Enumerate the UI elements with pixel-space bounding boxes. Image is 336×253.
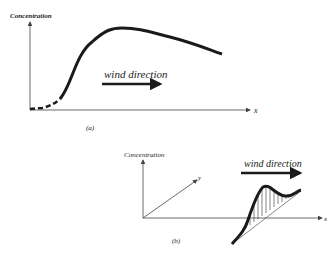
- b-y-axis: [143, 180, 197, 218]
- b-hatch: [250, 187, 286, 225]
- b-xlabel: x: [323, 215, 328, 223]
- b-baseline-diag: [232, 191, 301, 244]
- b-wind-label: wind direction: [244, 158, 302, 169]
- figure-b: Concentration y x wind direction (b): [124, 151, 328, 245]
- b-zlabel: Concentration: [124, 151, 165, 159]
- diagram-canvas: Concentration x wind direction (a) Conce…: [0, 0, 336, 253]
- figure-a: Concentration x wind direction (a): [10, 12, 258, 132]
- a-ylabel: Concentration: [10, 12, 52, 20]
- a-xlabel: x: [253, 106, 258, 115]
- b-ylabel: y: [197, 174, 202, 182]
- a-curve-dashed: [30, 99, 60, 109]
- b-concentration-curve: [232, 186, 301, 244]
- a-caption: (a): [86, 124, 95, 132]
- a-concentration-curve: [60, 28, 222, 99]
- a-wind-label: wind direction: [104, 68, 168, 80]
- b-caption: (b): [172, 237, 181, 245]
